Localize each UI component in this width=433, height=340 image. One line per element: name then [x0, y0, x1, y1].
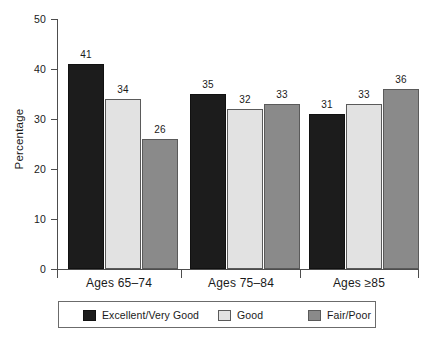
- y-tick-label-40: 40: [16, 64, 46, 74]
- y-tick-label-20: 20: [16, 164, 46, 174]
- y-axis-line: [57, 19, 58, 270]
- bar-value-g2-s1: 33: [344, 90, 384, 100]
- legend-swatch-icon-good: [218, 310, 231, 321]
- y-axis-title: Percentage: [13, 79, 25, 199]
- y-tick-label-0: 0: [16, 264, 46, 274]
- bar-value-g1-s2: 33: [262, 90, 302, 100]
- bar-g1-s2[interactable]: [264, 104, 300, 269]
- legend-label-good: Good: [237, 310, 263, 321]
- y-tick-mark-10: [51, 219, 58, 220]
- bar-g2-s1[interactable]: [346, 104, 382, 269]
- legend-swatch-icon-excellent-very-good: [83, 310, 96, 321]
- legend-label-fair-poor: Fair/Poor: [327, 310, 371, 321]
- legend-item-excellent-very-good[interactable]: Excellent/Very Good: [83, 308, 199, 322]
- x-axis-line: [57, 269, 419, 270]
- bar-g0-s2[interactable]: [142, 139, 178, 269]
- y-tick-label-30: 30: [16, 114, 46, 124]
- bar-value-g2-s0: 31: [307, 100, 347, 110]
- bar-value-g0-s2: 26: [140, 125, 180, 135]
- y-tick-label-50: 50: [16, 14, 46, 24]
- x-group-label-2: Ages ≥85: [289, 276, 429, 290]
- y-tick-mark-40: [51, 69, 58, 70]
- bar-g2-s0[interactable]: [309, 114, 345, 269]
- bar-value-g1-s1: 32: [225, 95, 265, 105]
- legend-swatch-icon-fair-poor: [308, 310, 321, 321]
- bar-chart-figure: Percentage 50 40 30 20 10 0 41 34 26 35 …: [0, 0, 433, 340]
- legend-item-fair-poor[interactable]: Fair/Poor: [308, 308, 371, 322]
- y-tick-mark-50: [51, 19, 58, 20]
- y-tick-mark-20: [51, 169, 58, 170]
- bar-g0-s1[interactable]: [105, 99, 141, 269]
- bar-g1-s0[interactable]: [190, 94, 226, 269]
- bar-value-g2-s2: 36: [381, 75, 421, 85]
- chart-legend: Excellent/Very Good Good Fair/Poor: [58, 301, 376, 328]
- bar-g0-s0[interactable]: [68, 64, 104, 269]
- x-group-label-0: Ages 65–74: [49, 276, 189, 290]
- legend-item-good[interactable]: Good: [218, 308, 263, 322]
- y-tick-mark-30: [51, 119, 58, 120]
- legend-label-excellent-very-good: Excellent/Very Good: [102, 310, 199, 321]
- bar-g2-s2[interactable]: [383, 89, 419, 269]
- y-tick-label-10: 10: [16, 214, 46, 224]
- bar-value-g0-s1: 34: [103, 85, 143, 95]
- bar-value-g0-s0: 41: [66, 50, 106, 60]
- bar-value-g1-s0: 35: [188, 80, 228, 90]
- bar-g1-s1[interactable]: [227, 109, 263, 269]
